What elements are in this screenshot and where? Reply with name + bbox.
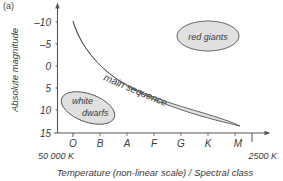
y-tick-label: –10	[33, 17, 51, 28]
white-dwarfs-label-line2: dwarfs	[82, 108, 109, 118]
y-tick-label: 0	[45, 61, 51, 72]
x-axis-tick-labels: O B A F G K M	[69, 138, 243, 149]
y-tick-label: 5	[45, 83, 51, 94]
spectral-class-label: O	[69, 138, 77, 149]
y-tick-label: –5	[39, 39, 52, 50]
region-red-giants: red giants	[177, 21, 239, 51]
temperature-right-label: 2500 K	[247, 151, 278, 161]
main-sequence-label: main sequence	[102, 72, 169, 109]
white-dwarfs-label-line1: white	[72, 96, 93, 106]
hr-diagram-canvas: main sequence red giants white dwarfs –1…	[0, 0, 283, 181]
y-tick-label: 15	[40, 128, 52, 139]
temperature-left-label: 50 000 K	[38, 151, 75, 161]
y-axis-title: Absolute magnitude	[9, 28, 20, 113]
spectral-class-label: G	[177, 138, 185, 149]
spectral-class-label: A	[123, 138, 131, 149]
y-axis-tick-labels: –10 –5 0 5 10 15	[33, 17, 51, 139]
red-giants-label: red giants	[188, 32, 228, 42]
spectral-class-label: M	[234, 138, 243, 149]
spectral-class-label: B	[97, 138, 104, 149]
region-white-dwarfs: white dwarfs	[57, 85, 119, 130]
spectral-class-label: K	[205, 138, 213, 149]
y-axis-arrowhead	[55, 3, 60, 9]
spectral-class-label: F	[151, 138, 158, 149]
y-tick-label: 10	[40, 105, 52, 116]
x-axis-arrowhead	[265, 131, 271, 136]
x-axis-title: Temperature (non-linear scale) / Spectra…	[57, 167, 254, 178]
hr-diagram-figure: (a)	[0, 0, 283, 181]
